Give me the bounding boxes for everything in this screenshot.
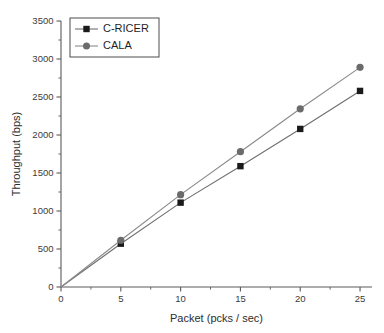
data-point bbox=[357, 88, 363, 94]
throughput-vs-packet-line-chart: 0500100015002000250030003500 0510152025 … bbox=[0, 0, 384, 333]
data-point bbox=[297, 126, 303, 132]
x-tick-label: 10 bbox=[175, 293, 186, 304]
data-point bbox=[356, 64, 363, 71]
y-tick-label: 2000 bbox=[32, 129, 53, 140]
x-tick-label: 15 bbox=[235, 293, 246, 304]
legend-label: C-RICER bbox=[103, 22, 149, 34]
y-tick-label: 3000 bbox=[32, 53, 53, 64]
data-point bbox=[177, 199, 183, 205]
x-tick-label: 0 bbox=[58, 293, 63, 304]
y-tick-label: 0 bbox=[48, 281, 53, 292]
legend-marker-circle bbox=[83, 43, 90, 50]
legend-label: CALA bbox=[103, 39, 132, 51]
data-point bbox=[117, 237, 124, 244]
chart-legend[interactable]: C-RICERCALA bbox=[70, 18, 159, 57]
data-point bbox=[237, 163, 243, 169]
y-tick-label: 1500 bbox=[32, 167, 53, 178]
data-point bbox=[237, 148, 244, 155]
data-point bbox=[177, 191, 184, 198]
y-tick-label: 1000 bbox=[32, 205, 53, 216]
plot-area-background bbox=[0, 0, 384, 333]
x-tick-label: 5 bbox=[118, 293, 123, 304]
x-axis-title: Packet (pcks / sec) bbox=[170, 312, 263, 324]
data-point bbox=[297, 105, 304, 112]
chart-figure: 0500100015002000250030003500 0510152025 … bbox=[0, 0, 384, 333]
y-axis-title: Throughput (bps) bbox=[10, 112, 22, 196]
x-tick-label: 25 bbox=[355, 293, 366, 304]
legend-marker-square bbox=[83, 26, 89, 32]
x-tick-label: 20 bbox=[295, 293, 306, 304]
y-tick-label: 500 bbox=[38, 243, 54, 254]
y-tick-label: 2500 bbox=[32, 91, 53, 102]
y-tick-label: 3500 bbox=[32, 15, 53, 26]
